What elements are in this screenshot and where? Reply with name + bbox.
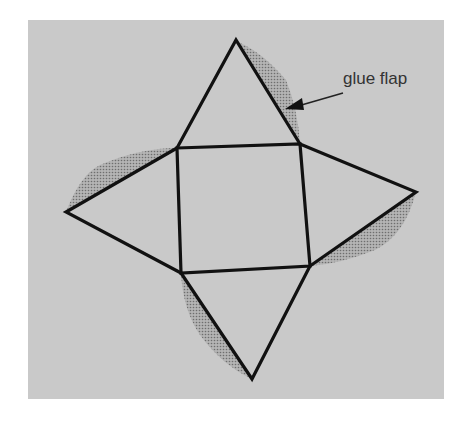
- glue-flap-label: glue flap: [343, 69, 407, 88]
- pyramid-net-diagram: glue flap: [0, 0, 463, 422]
- square-base: [177, 144, 310, 273]
- net-outline: [66, 40, 416, 379]
- annotation-arrow: [285, 93, 343, 110]
